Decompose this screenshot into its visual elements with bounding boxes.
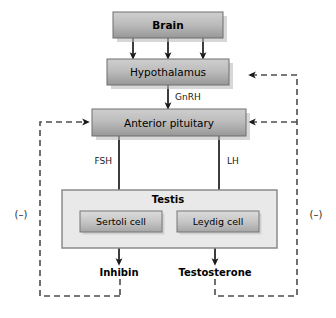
inhibin-label: Inhibin bbox=[99, 267, 138, 278]
endocrine-feedback-diagram: Testis Sertoli cell Leydig cell Brain Hy… bbox=[0, 0, 336, 318]
diagram-canvas: Testis Sertoli cell Leydig cell Brain Hy… bbox=[0, 0, 336, 318]
leydig-cell-label: Leydig cell bbox=[193, 216, 244, 227]
left-negative-feedback-sign: (–) bbox=[15, 209, 28, 220]
hypothalamus-box: Hypothalamus bbox=[107, 59, 233, 89]
testis-label: Testis bbox=[152, 194, 184, 205]
gnrh-label: GnRH bbox=[175, 92, 201, 102]
hypothalamus-label: Hypothalamus bbox=[130, 66, 206, 78]
brain-label: Brain bbox=[152, 19, 183, 31]
sertoli-cell-box: Sertoli cell bbox=[80, 211, 165, 235]
testosterone-label: Testosterone bbox=[178, 267, 251, 278]
lh-label: LH bbox=[227, 156, 239, 166]
sertoli-cell-label: Sertoli cell bbox=[96, 216, 146, 227]
right-negative-feedback-sign: (–) bbox=[310, 209, 323, 220]
anterior-pituitary-box: Anterior pituitary bbox=[92, 109, 250, 140]
anterior-pituitary-label: Anterior pituitary bbox=[124, 117, 214, 129]
feedback-loop-right bbox=[215, 75, 297, 296]
leydig-cell-box: Leydig cell bbox=[177, 211, 262, 235]
brain-box: Brain bbox=[113, 12, 227, 42]
fsh-label: FSH bbox=[95, 156, 113, 166]
